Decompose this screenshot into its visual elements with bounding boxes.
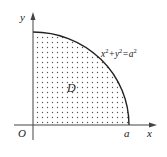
x-axis-label: x — [146, 127, 152, 139]
region-d — [33, 32, 129, 125]
origin-label: O — [18, 127, 26, 139]
curve-equation: x2+y2=a2 — [100, 47, 137, 59]
region-d-label: D — [66, 81, 76, 95]
y-axis-label: y — [19, 11, 25, 23]
quarter-circle-diagram: y x O a D x2+y2=a2 — [0, 0, 167, 157]
eq-equals-a: =a — [122, 49, 133, 59]
intercept-a-label: a — [124, 127, 130, 139]
eq-sup3: 2 — [134, 47, 137, 54]
y-axis-arrow-icon — [31, 12, 36, 20]
